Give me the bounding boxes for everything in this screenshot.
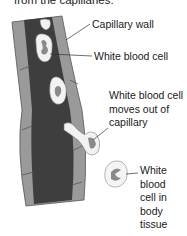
label-moves-out: White blood cell moves out of capillary (109, 89, 183, 130)
label-in-tissue-line-1: White (140, 164, 167, 178)
label-in-tissue-line-4: body (140, 205, 167, 219)
label-in-tissue: White blood cell in body tissue (140, 164, 167, 232)
label-white-blood-cell: White blood cell (94, 50, 168, 64)
label-moves-out-line-2: moves out of (109, 103, 183, 117)
label-moves-out-line-1: White blood cell (109, 89, 183, 103)
label-in-tissue-line-3: cell in (140, 191, 167, 205)
label-moves-out-line-3: capillary (109, 116, 183, 130)
white-blood-cell-in-tissue (105, 161, 128, 187)
label-in-tissue-line-5: tissue (140, 218, 167, 232)
label-capillary-wall: Capillary wall (92, 18, 154, 32)
label-in-tissue-line-2: blood (140, 178, 167, 192)
